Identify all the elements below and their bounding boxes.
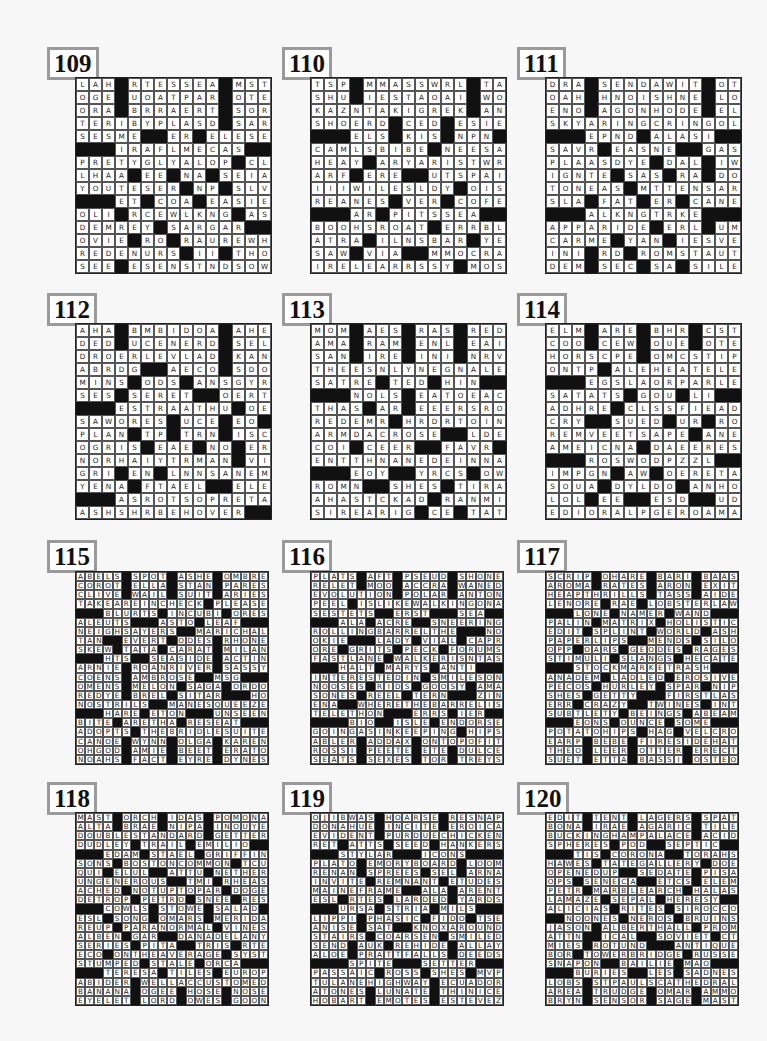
letter-cell: O [583, 645, 592, 654]
letter-cell: O [583, 609, 592, 618]
black-square [412, 682, 421, 691]
letter-cell: N [376, 454, 389, 467]
letter-cell: I [476, 618, 485, 627]
letter-cell: A [167, 441, 180, 454]
letter-cell: E [250, 737, 259, 746]
letter-cell: H [663, 91, 676, 104]
letter-cell: U [94, 923, 103, 932]
letter-cell: T [393, 950, 402, 959]
letter-cell: G [628, 987, 637, 996]
letter-cell: A [601, 923, 610, 932]
letter-cell: H [650, 363, 663, 376]
letter-cell: T [402, 91, 415, 104]
letter-cell: R [583, 636, 592, 645]
letter-cell: E [467, 337, 480, 350]
letter-cell: B [546, 950, 555, 959]
letter-cell: P [611, 350, 624, 363]
letter-cell: K [439, 599, 448, 608]
letter-cell: H [311, 996, 320, 1005]
letter-cell: N [222, 859, 231, 868]
letter-cell: A [692, 968, 701, 977]
letter-cell: R [259, 831, 268, 840]
black-square [656, 682, 665, 691]
letter-cell: A [454, 441, 467, 454]
letter-cell: R [441, 78, 454, 91]
black-square [729, 609, 738, 618]
letter-cell: R [689, 467, 702, 480]
black-square [376, 208, 389, 221]
letter-cell: E [601, 914, 610, 923]
letter-cell: N [384, 727, 393, 736]
letter-cell: E [720, 755, 729, 764]
letter-cell: E [140, 636, 149, 645]
letter-cell: A [494, 682, 503, 691]
letter-cell: L [476, 932, 485, 941]
letter-cell: A [457, 590, 466, 599]
letter-cell: V [493, 350, 506, 363]
letter-cell: F [430, 914, 439, 923]
letter-cell: A [357, 813, 366, 822]
letter-cell: O [158, 682, 167, 691]
letter-cell: R [663, 376, 676, 389]
letter-cell: I [448, 599, 457, 608]
black-square [177, 877, 186, 886]
black-square [628, 636, 637, 645]
letter-cell: E [720, 645, 729, 654]
letter-cell: A [711, 996, 720, 1005]
letter-cell: N [610, 996, 619, 1005]
letter-cell: B [573, 968, 582, 977]
letter-cell: L [376, 389, 389, 402]
letter-cell: E [222, 968, 231, 977]
letter-cell: E [439, 978, 448, 987]
letter-cell: M [102, 221, 115, 234]
letter-cell: A [213, 682, 222, 691]
letter-cell: D [619, 987, 628, 996]
letter-cell: T [131, 950, 140, 959]
black-square [357, 923, 366, 932]
letter-cell: T [711, 755, 720, 764]
black-square [583, 737, 592, 746]
letter-cell: N [115, 428, 128, 441]
letter-cell: I [363, 350, 376, 363]
letter-cell: L [720, 636, 729, 645]
letter-cell: E [348, 682, 357, 691]
letter-cell: A [494, 822, 503, 831]
letter-cell: T [454, 480, 467, 493]
letter-cell: O [728, 480, 741, 493]
letter-cell: O [573, 914, 582, 923]
letter-cell: H [103, 755, 112, 764]
letter-cell: E [222, 914, 231, 923]
letter-cell: N [193, 182, 206, 195]
letter-cell: E [564, 691, 573, 700]
letter-cell: M [729, 923, 738, 932]
letter-cell: D [637, 78, 650, 91]
letter-cell: E [412, 996, 421, 1005]
letter-cell: O [177, 636, 186, 645]
letter-cell: F [637, 737, 646, 746]
letter-cell: I [583, 904, 592, 913]
black-square [113, 822, 122, 831]
letter-cell: L [628, 682, 637, 691]
letter-cell: H [113, 627, 122, 636]
letter-cell: N [122, 950, 131, 959]
letter-cell: E [324, 156, 337, 169]
black-square [610, 654, 619, 663]
letter-cell: P [329, 914, 338, 923]
letter-cell: O [546, 877, 555, 886]
letter-cell: I [701, 840, 710, 849]
letter-cell: T [647, 700, 656, 709]
letter-cell: H [466, 727, 475, 736]
letter-cell: U [610, 987, 619, 996]
letter-cell: E [154, 260, 167, 273]
letter-cell: C [149, 755, 158, 764]
letter-cell: O [585, 506, 598, 519]
letter-cell: T [76, 636, 85, 645]
letter-cell: E [167, 987, 176, 996]
letter-cell: O [219, 389, 232, 402]
letter-cell: R [389, 260, 402, 273]
letter-cell: L [454, 78, 467, 91]
letter-cell: T [241, 859, 250, 868]
black-square [585, 91, 598, 104]
black-square [585, 337, 598, 350]
black-square [122, 737, 131, 746]
